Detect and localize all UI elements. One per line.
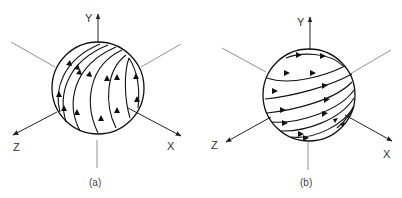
axis-back-right-b — [350, 50, 391, 74]
z-axis-label-a: Z — [13, 141, 20, 153]
field-lines-b — [265, 54, 354, 137]
y-axis-label-a: Y — [85, 12, 93, 24]
arrow-up-icon — [86, 71, 92, 77]
x-axis-label-b: X — [383, 148, 391, 160]
caption-b: (b) — [300, 177, 312, 188]
arrow-up-icon — [74, 109, 80, 115]
arrow-right-icon — [310, 70, 316, 76]
arrow-right-icon — [272, 88, 278, 94]
x-axis-label-a: X — [167, 140, 175, 152]
x-axis-b — [345, 115, 392, 141]
arrow-up-icon — [56, 91, 62, 97]
arrow-right-icon — [284, 70, 290, 76]
arrow-right-icon — [280, 107, 286, 113]
y-axis-label-b: Y — [297, 16, 305, 28]
arrow-up-icon — [133, 73, 139, 79]
figure-a: Y Z X — [11, 12, 181, 188]
z-axis-b — [226, 117, 271, 142]
arrow-up-icon — [76, 69, 82, 75]
arrow-right-icon — [296, 52, 302, 58]
arrow-up-icon — [114, 74, 120, 80]
arrow-right-icon — [320, 53, 326, 59]
arrow-right-icon — [322, 83, 328, 89]
axis-back-right-a — [141, 44, 181, 67]
x-axis-a — [128, 108, 181, 136]
arrow-right-icon — [333, 118, 338, 123]
arrow-up-icon — [61, 105, 67, 111]
diagram-canvas: Y Z X — [0, 0, 402, 198]
arrow-up-icon — [114, 107, 120, 113]
field-lines-a — [58, 44, 139, 133]
arrow-up-icon — [66, 60, 72, 66]
axis-back-left-a — [11, 42, 55, 67]
z-axis-label-b: Z — [211, 139, 218, 151]
arrow-up-icon — [104, 75, 110, 81]
figure-b: Y Z X — [211, 16, 392, 188]
z-axis-a — [13, 112, 57, 135]
flow-arrows-a — [56, 60, 140, 121]
arrow-up-icon — [74, 64, 80, 70]
arrow-right-icon — [282, 120, 288, 126]
axis-back-left-b — [222, 48, 266, 72]
caption-a: (a) — [89, 177, 101, 188]
arrow-up-icon — [98, 115, 104, 121]
